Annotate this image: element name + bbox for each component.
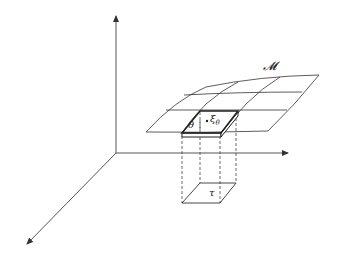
- manifold-surface: [146, 75, 319, 133]
- diagonal-axis: [27, 153, 116, 244]
- point-xi: [206, 120, 208, 122]
- mesh-row-line: [184, 92, 302, 95]
- manifold-label: 𝓜: [263, 59, 280, 73]
- patch-theta: θ ξθ: [182, 111, 238, 137]
- theta-label: θ: [188, 119, 194, 130]
- xi-label: ξθ: [210, 113, 221, 127]
- patch-slab-side: [221, 112, 238, 137]
- manifold-diagram: τ θ ξθ 𝓜: [0, 0, 345, 259]
- tau-label: τ: [209, 187, 215, 198]
- coordinate-axes: [27, 16, 288, 244]
- base-region-tau: τ: [182, 183, 236, 203]
- surface-boundary: [146, 75, 319, 132]
